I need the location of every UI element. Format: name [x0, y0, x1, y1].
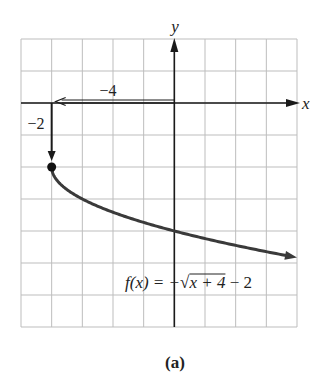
horizontal-shift-label: −4: [99, 82, 116, 99]
y-axis-label: y: [169, 17, 179, 36]
function-label-prefix: f(x) = −√x + 4 − 2: [125, 273, 252, 292]
coordinate-plot: y x −4 −2 f(x) = −√x + 4 − 2 (a): [0, 0, 310, 387]
function-curve: [47, 163, 297, 260]
x-axis-arrow-icon: [286, 99, 300, 107]
x-axis-label: x: [301, 94, 310, 113]
start-point-marker: [47, 163, 56, 172]
arrow-left-icon: [56, 98, 66, 106]
function-label: f(x) = −√x + 4 − 2: [125, 273, 252, 292]
vertical-shift-label: −2: [27, 115, 44, 132]
curve-arrow-icon: [284, 251, 297, 260]
y-axis-arrow-icon: [170, 38, 178, 52]
arrow-down-icon: [48, 151, 56, 161]
graph-figure: y x −4 −2 f(x) = −√x + 4 − 2 (a): [0, 0, 310, 387]
curve-path: [52, 167, 290, 256]
shift-annotations: [48, 98, 175, 162]
figure-caption: (a): [165, 353, 185, 372]
